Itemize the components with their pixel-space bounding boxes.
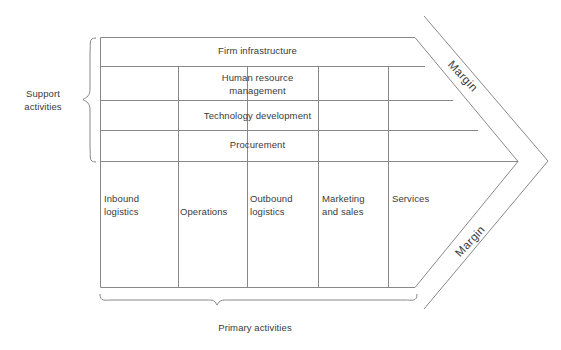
cell-outbound-logistics: Outbound logistics bbox=[250, 193, 316, 218]
cell-technology-development: Technology development bbox=[100, 110, 415, 123]
support-activities-label: Support activities bbox=[10, 88, 76, 113]
primary-activities-brace bbox=[100, 294, 417, 305]
value-chain-diagram: Firm infrastructure Human resource manag… bbox=[0, 0, 561, 350]
margin-top-outer-line bbox=[424, 16, 548, 161]
cell-inbound-logistics: Inbound logistics bbox=[104, 193, 174, 218]
cell-services: Services bbox=[392, 193, 452, 206]
primary-activities-label: Primary activities bbox=[175, 322, 335, 335]
cell-procurement: Procurement bbox=[100, 139, 415, 152]
margin-bottom-outer-line bbox=[424, 161, 548, 309]
cell-marketing-and-sales: Marketing and sales bbox=[322, 193, 386, 218]
cell-firm-infrastructure: Firm infrastructure bbox=[100, 45, 415, 58]
support-activities-brace bbox=[83, 38, 96, 162]
cell-human-resource-management: Human resource management bbox=[100, 72, 415, 97]
cell-operations: Operations bbox=[180, 206, 244, 219]
